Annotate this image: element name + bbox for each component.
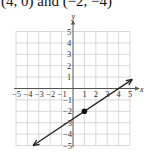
plotted-point — [82, 109, 88, 115]
x-tick-label: 2 — [94, 89, 98, 99]
x-tick-label: −2 — [46, 89, 55, 99]
x-tick-label: −5 — [12, 89, 21, 99]
x-tick-label: −3 — [35, 89, 44, 99]
x-tick-label: −4 — [23, 89, 33, 99]
x-tick-label: 1 — [82, 89, 86, 99]
y-tick-label: 5 — [67, 27, 71, 37]
y-tick-label: −5 — [63, 141, 72, 151]
y-tick-label: 3 — [67, 49, 71, 59]
y-tick-label: 1 — [67, 72, 71, 82]
y-tick-label: −2 — [63, 106, 72, 116]
x-axis-label: x — [139, 85, 144, 94]
x-tick-label: 5 — [128, 89, 132, 99]
coordinate-plane: xy−5−4−3−2−11234554321−1−2−3−4−5 — [0, 0, 144, 151]
y-tick-label: −4 — [63, 129, 73, 139]
y-axis-label: y — [71, 12, 76, 21]
y-tick-label: −1 — [63, 95, 72, 105]
y-tick-label: 2 — [67, 61, 71, 71]
